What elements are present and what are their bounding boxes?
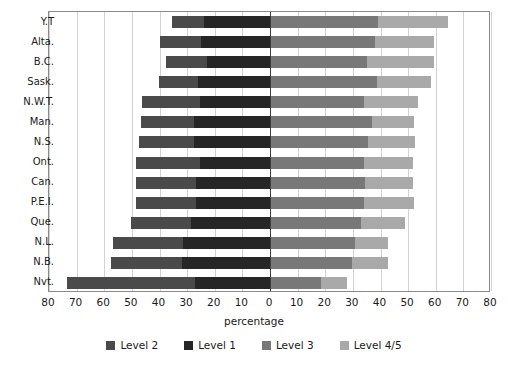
legend-item[interactable]: Level 4/5 (340, 339, 402, 351)
bar-segment (270, 257, 352, 269)
bar-segment (207, 56, 270, 68)
gridline (436, 12, 437, 291)
bar-row (49, 116, 489, 128)
bar-segment (67, 277, 195, 289)
bar-segment (200, 157, 270, 169)
y-axis-label: N.W.T. (0, 96, 54, 107)
bar-segment (139, 136, 193, 148)
bar-segment (136, 157, 200, 169)
x-axis-tick-label: 50 (116, 296, 146, 308)
gridline (160, 12, 161, 291)
legend-label: Level 3 (276, 339, 314, 351)
bar-segment (270, 217, 361, 229)
bar-segment (160, 36, 201, 48)
y-axis-label: Nvt. (0, 276, 54, 287)
bar-segment (141, 116, 193, 128)
legend-swatch-icon (262, 341, 271, 350)
zero-axis-line (270, 12, 271, 291)
gridline (491, 12, 492, 291)
bar-segment (182, 257, 270, 269)
bar-row (49, 277, 489, 289)
x-axis-tick-label: 20 (309, 296, 339, 308)
bar-segment (196, 197, 270, 209)
bar-segment (191, 217, 270, 229)
bar-segment (183, 237, 270, 249)
bar-segment (195, 277, 270, 289)
legend-item[interactable]: Level 2 (106, 339, 158, 351)
x-axis-tick-label: 20 (199, 296, 229, 308)
gridline (104, 12, 105, 291)
x-axis-tick-label: 80 (475, 296, 505, 308)
gridline (49, 12, 50, 291)
bar-row (49, 36, 489, 48)
gridline (187, 12, 188, 291)
legend-item[interactable]: Level 1 (184, 339, 236, 351)
y-axis-label: Alta. (0, 36, 54, 47)
bar-segment (136, 197, 195, 209)
y-axis-label: N.B. (0, 256, 54, 267)
bar-row (49, 157, 489, 169)
bar-segment (270, 96, 364, 108)
bar-segment (352, 257, 388, 269)
y-axis-label: Man. (0, 116, 54, 127)
bar-segment (201, 36, 270, 48)
bar-segment (142, 96, 199, 108)
bar-segment (111, 257, 181, 269)
bar-segment (372, 116, 415, 128)
x-axis-tick-label: 70 (447, 296, 477, 308)
bar-row (49, 96, 489, 108)
x-axis-tick-label: 30 (171, 296, 201, 308)
bar-segment (270, 36, 375, 48)
legend-swatch-icon (340, 341, 349, 350)
gridline (408, 12, 409, 291)
y-axis-label: Que. (0, 216, 54, 227)
x-axis-tick-label: 70 (61, 296, 91, 308)
bar-segment (200, 96, 270, 108)
legend-item[interactable]: Level 3 (262, 339, 314, 351)
legend-label: Level 4/5 (354, 339, 402, 351)
bar-segment (136, 177, 195, 189)
x-axis-tick-label: 10 (226, 296, 256, 308)
gridline (242, 12, 243, 291)
chart-legend: Level 2Level 1Level 3Level 4/5 (0, 339, 508, 351)
bar-segment (194, 116, 270, 128)
bar-segment (365, 177, 413, 189)
x-axis-tick-label: 80 (33, 296, 63, 308)
bar-segment (159, 76, 197, 88)
y-axis-label: B.C. (0, 56, 54, 67)
bar-segment (131, 217, 190, 229)
bar-segment (375, 36, 434, 48)
bar-segment (270, 177, 365, 189)
bar-segment (270, 76, 377, 88)
bar-segment (321, 277, 348, 289)
legend-swatch-icon (184, 341, 193, 350)
bar-segment (204, 16, 270, 28)
x-axis-tick-label: 60 (88, 296, 118, 308)
bar-segment (270, 136, 368, 148)
y-axis-label: N.S. (0, 136, 54, 147)
x-axis-tick-label: 40 (144, 296, 174, 308)
chart-container: Y.TAlta.B.C.Sask.N.W.T.Man.N.S.Ont.Can.P… (0, 0, 508, 366)
bar-segment (113, 237, 182, 249)
y-axis-label: P.E.I. (0, 196, 54, 207)
bar-row (49, 136, 489, 148)
x-axis-tick-label: 50 (392, 296, 422, 308)
bar-segment (270, 197, 364, 209)
bar-segment (270, 157, 364, 169)
plot-area (48, 11, 490, 292)
gridline (298, 12, 299, 291)
y-axis-label: Y.T (0, 16, 54, 27)
gridline (381, 12, 382, 291)
gridline (132, 12, 133, 291)
gridline (325, 12, 326, 291)
bar-segment (364, 157, 413, 169)
bar-segment (364, 96, 418, 108)
bar-segment (270, 16, 378, 28)
bar-segment (368, 136, 415, 148)
bar-row (49, 197, 489, 209)
bar-segment (194, 136, 270, 148)
bar-segment (378, 16, 448, 28)
bar-segment (364, 197, 413, 209)
legend-swatch-icon (106, 341, 115, 350)
bar-segment (361, 217, 405, 229)
